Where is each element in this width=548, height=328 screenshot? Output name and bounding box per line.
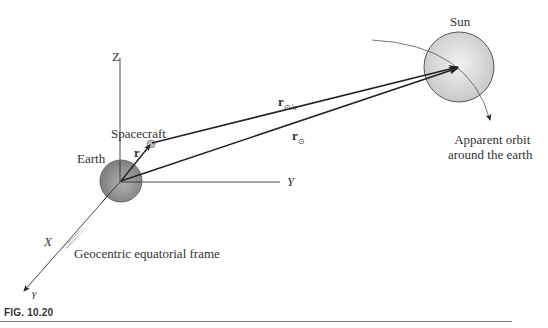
r-label: r xyxy=(134,146,140,159)
earth-label: Earth xyxy=(77,152,105,165)
spacecraft-label: Spacecraft xyxy=(111,127,166,140)
y-axis-label: Y xyxy=(287,175,294,188)
vector-r-sun-spacecraft xyxy=(152,67,458,143)
r-sun-spacecraft-label: r⊙/s xyxy=(278,95,296,112)
caption-rule xyxy=(0,321,512,322)
sun-label: Sun xyxy=(450,15,470,28)
x-axis-label: X xyxy=(44,235,52,248)
z-axis-label: Z xyxy=(112,50,120,63)
figure-caption: FIG. 10.20 xyxy=(4,307,53,318)
vector-r-sun xyxy=(121,68,458,181)
r-sun-label: r⊙ xyxy=(292,129,305,146)
gamma-label: γ xyxy=(32,288,36,299)
orbit-label: Apparent orbit around the earth xyxy=(448,133,532,161)
frame-label: Geocentric equatorial frame xyxy=(74,247,220,260)
sun xyxy=(424,32,494,102)
